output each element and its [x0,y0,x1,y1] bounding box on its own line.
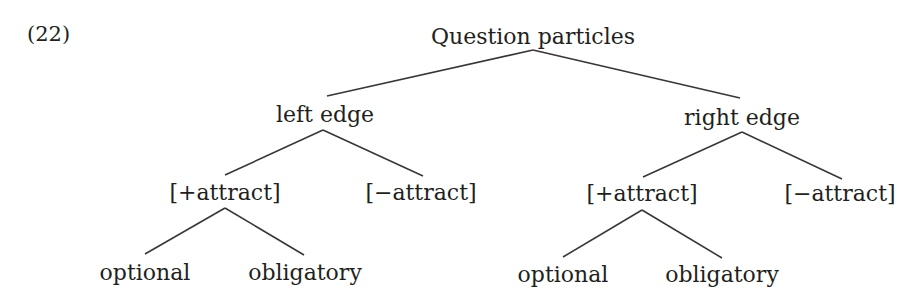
right-obligatory-node: obligatory [665,264,779,286]
branch-right-plus [643,132,742,177]
left-edge-node: left edge [276,104,374,126]
branch-right-minus [742,132,842,179]
right-optional-node: optional [518,264,609,286]
branch-root-right [533,50,740,98]
branch-root-left [327,50,533,96]
branch-left-optional [145,208,225,254]
branch-left-obligatory [225,208,304,255]
left-optional-node: optional [100,262,191,284]
left-minus-attract-node: [−attract] [365,182,476,204]
left-obligatory-node: obligatory [248,262,362,284]
branch-right-obligatory [642,210,722,258]
branch-right-optional [563,210,642,257]
right-edge-node: right edge [684,107,800,129]
root-node: Question particles [431,26,635,48]
branch-left-plus [225,130,323,175]
example-number: (22) [27,22,70,46]
right-plus-attract-node: [+attract] [586,183,697,205]
branch-left-minus [323,130,423,176]
right-minus-attract-node: [−attract] [784,183,895,205]
left-plus-attract-node: [+attract] [169,182,280,204]
tree-diagram: (22) Question particles left edge right … [0,0,917,303]
